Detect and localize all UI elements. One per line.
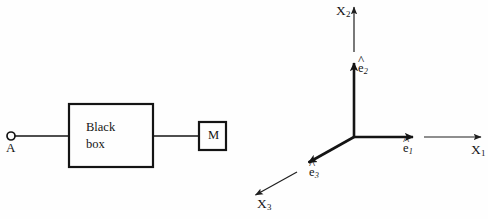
axis-x3-subscript: 3 xyxy=(267,202,271,212)
black-box-label-line1: Black xyxy=(86,120,115,134)
black-box-label-line2: box xyxy=(86,137,105,151)
terminal-a-circle xyxy=(7,132,15,140)
axis-x1-subscript: 1 xyxy=(481,148,485,158)
basis-vector-e3 xyxy=(309,137,355,163)
figure-vector-layer xyxy=(0,0,488,219)
basis-triad-panel xyxy=(256,7,482,195)
axis-x2-symbol: X xyxy=(336,3,346,18)
black-box-label: Blackbox xyxy=(86,119,115,152)
basis-vector-e1-label: e1 xyxy=(403,142,413,157)
e2-hat-symbol: e xyxy=(358,62,364,75)
axis-x3-symbol: X xyxy=(257,196,267,211)
e3-subscript: 3 xyxy=(315,171,319,180)
e1-subscript: 1 xyxy=(409,147,413,156)
terminal-a-label: A xyxy=(6,141,15,154)
axis-x1-symbol: X xyxy=(471,142,481,157)
e2-subscript: 2 xyxy=(364,67,368,76)
e1-hat-symbol: e xyxy=(403,142,409,155)
axis-x2-label: X2 xyxy=(336,4,350,19)
axis-x3-label: X3 xyxy=(257,197,271,212)
meter-label: M xyxy=(208,129,219,142)
basis-vector-e3-label: e3 xyxy=(309,166,319,181)
figure-canvas: A Blackbox M X1 X2 X3 e1 e2 e3 xyxy=(0,0,488,219)
axis-x1-label: X1 xyxy=(471,143,485,158)
e3-hat-symbol: e xyxy=(309,166,315,179)
axis-x3-line xyxy=(256,172,298,195)
basis-vector-e2-label: e2 xyxy=(358,62,368,77)
black-box-circuit-panel xyxy=(7,104,226,167)
axis-x2-subscript: 2 xyxy=(346,9,350,19)
